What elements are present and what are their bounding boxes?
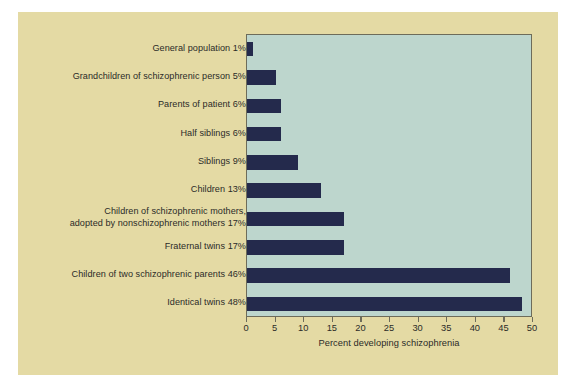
category-label: General population 1% [18, 43, 246, 54]
bar [247, 127, 281, 142]
bar [247, 155, 298, 170]
category-label: Grandchildren of schizophrenic person 5% [18, 71, 246, 82]
bar [247, 268, 510, 283]
chart-figure: General population 1%Grandchildren of sc… [0, 0, 578, 389]
x-axis-tick-label: 0 [243, 323, 248, 333]
x-axis: Percent developing schizophrenia 0510152… [246, 317, 532, 375]
bar [247, 183, 321, 198]
x-axis-tick-label: 45 [498, 323, 508, 333]
x-axis-tick-label: 15 [327, 323, 337, 333]
bar [247, 70, 276, 85]
x-axis-tick [275, 317, 276, 322]
bar [247, 212, 344, 227]
category-label-column: General population 1%Grandchildren of sc… [18, 12, 246, 375]
category-label: Fraternal twins 17% [18, 241, 246, 252]
x-axis-tick-label: 5 [272, 323, 277, 333]
bar [247, 99, 281, 114]
x-axis-tick [418, 317, 419, 322]
x-axis-tick-label: 10 [298, 323, 308, 333]
bar [247, 42, 253, 57]
x-axis-tick-label: 30 [412, 323, 422, 333]
bar [247, 240, 344, 255]
category-label: Parents of patient 6% [18, 99, 246, 110]
x-axis-tick [360, 317, 361, 322]
x-axis-tick [246, 317, 247, 322]
category-label: Identical twins 48% [18, 297, 246, 308]
x-axis-tick-label: 40 [470, 323, 480, 333]
category-label: Half siblings 6% [18, 128, 246, 139]
category-label: Children of two schizophrenic parents 46… [18, 269, 246, 280]
x-axis-tick [389, 317, 390, 322]
x-axis-tick-label: 50 [527, 323, 537, 333]
x-axis-tick [332, 317, 333, 322]
x-axis-tick [303, 317, 304, 322]
x-axis-title: Percent developing schizophrenia [246, 338, 532, 348]
x-axis-tick [446, 317, 447, 322]
category-label: Siblings 9% [18, 156, 246, 167]
plot-area [246, 34, 532, 317]
chart-card: General population 1%Grandchildren of sc… [18, 12, 558, 375]
x-axis-tick [532, 317, 533, 322]
bar-series [247, 35, 531, 316]
category-label: Children of schizophrenic mothers, adopt… [18, 206, 246, 229]
bar [247, 297, 522, 312]
x-axis-tick-label: 35 [441, 323, 451, 333]
x-axis-tick-label: 25 [384, 323, 394, 333]
category-label: Children 13% [18, 184, 246, 195]
x-axis-tick-label: 20 [355, 323, 365, 333]
x-axis-tick [475, 317, 476, 322]
x-axis-tick [503, 317, 504, 322]
